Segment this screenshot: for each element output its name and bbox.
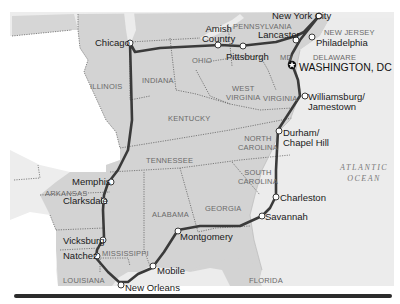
state-label-north-carolina-line1: NORTH [238,134,278,143]
state-label-georgia: GEORGIA [205,204,241,213]
city-label-natchez: Natchez [63,251,98,261]
city-label-memphis: Memphis [72,177,111,187]
city-label-durham-chapel-hill: Durham/ Chapel Hill [283,128,329,148]
stop-charleston[interactable] [273,194,279,200]
city-label-clarksdale: Clarksdale [63,196,108,206]
ocean-label-line2: OCEAN [340,173,388,184]
city-label-montgomery: Montgomery [180,232,233,242]
state-label-maryland: MD [280,53,292,62]
state-label-kentucky: KENTUCKY [168,114,210,123]
state-label-indiana: INDIANA [142,76,174,85]
state-label-west-virginia-line1: WEST [226,84,261,93]
texas-unshaded-region [10,212,58,286]
state-label-south-carolina: SOUTH CAROLINA [238,168,278,186]
city-label-charleston: Charleston [280,193,326,203]
state-label-south-carolina-line2: CAROLINA [238,177,278,186]
stop-mobile[interactable] [150,263,156,269]
city-label-amish-country: Amish Country [202,24,235,44]
city-label-williamsburg-line2: Jamestown [308,102,365,112]
city-label-savannah: Savannah [265,212,308,222]
state-label-west-virginia-line2: VIRGINIA [226,93,261,102]
city-label-philadelphia: Philadelphia [316,38,368,48]
city-label-williamsburg-jamestown: Williamsburg/ Jamestown [308,92,365,112]
city-label-vicksburg: Vicksburg [63,236,105,246]
state-label-florida: FLORIDA [249,276,283,285]
city-label-mobile: Mobile [157,266,185,276]
city-label-new-orleans: New Orleans [125,283,180,293]
state-label-virginia: VIRGINIA [263,94,298,103]
state-label-illinois: ILLINOIS [90,82,122,91]
city-label-chicago: Chicago [95,38,130,48]
ocean-label-line1: ATLANTIC [340,162,388,173]
star-icon[interactable] [288,61,296,69]
state-label-tennessee: TENNESSEE [146,156,193,165]
stop-philadelphia[interactable] [309,34,315,40]
state-label-alabama: ALABAMA [152,210,189,219]
city-label-pittsburgh: Pittsburgh [226,52,269,62]
state-label-ohio: OHIO [192,56,212,65]
state-label-west-virginia: WEST VIRGINIA [226,84,261,102]
state-label-south-carolina-line1: SOUTH [238,168,278,177]
city-label-durham-line2: Chapel Hill [283,138,329,148]
capital-label-washington-dc: WASHINGTON, DC [299,61,392,73]
state-label-new-jersey: NEW JERSEY [324,28,375,37]
city-label-lancaster: Lancaster [258,30,300,40]
state-label-north-carolina-line2: CAROLINA [238,143,278,152]
state-label-louisiana: LOUISIANA [63,276,105,285]
map-base-bar [14,294,392,298]
state-label-north-carolina: NORTH CAROLINA [238,134,278,152]
state-label-mississippi: MISSISSIPPI [102,249,149,258]
stop-pittsburgh[interactable] [240,43,246,49]
stop-new-orleans[interactable] [118,282,124,288]
ocean-label-atlantic: ATLANTIC OCEAN [340,162,388,184]
city-label-new-york-city: New York City [272,11,331,21]
city-label-amish-country-line2: Country [202,34,235,44]
